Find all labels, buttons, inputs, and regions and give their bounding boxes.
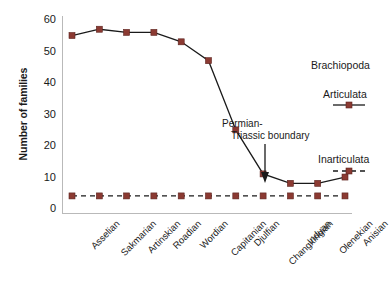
plot-area [0,0,391,294]
data-point-inarticulata-sakmarian[interactable] [96,193,102,199]
data-point-inarticulata-capitanian[interactable] [206,193,212,199]
data-point-articulata-anisian[interactable] [342,174,348,180]
legend-title: Brachiopoda [311,59,370,71]
data-point-articulata-capitanian[interactable] [206,58,212,64]
legend-label-articulata[interactable]: Articulata [323,88,367,100]
data-point-articulata-olenekian[interactable] [315,180,321,186]
annotation-permian-triassic-line1: Permian- [222,118,263,130]
data-point-inarticulata-olenekian[interactable] [315,193,321,199]
data-point-inarticulata-changxingian[interactable] [260,193,266,199]
data-point-articulata-wordian[interactable] [178,39,184,45]
data-point-inarticulata-induan[interactable] [287,193,293,199]
legend-label-inarticulata[interactable]: Inarticulata [318,153,369,165]
data-point-inarticulata-anisian[interactable] [342,193,348,199]
data-point-inarticulata-asselian[interactable] [69,193,75,199]
data-point-articulata-sakmarian[interactable] [96,26,102,32]
annotation-permian-triassic-line2: Triassic boundary [231,130,310,142]
data-point-articulata-asselian[interactable] [69,33,75,39]
data-point-articulata-roadian[interactable] [151,29,157,35]
data-point-inarticulata-djulfian[interactable] [233,193,239,199]
data-point-inarticulata-roadian[interactable] [151,193,157,199]
data-point-inarticulata-artinskian[interactable] [124,193,130,199]
data-point-articulata-artinskian[interactable] [124,29,130,35]
data-point-articulata-induan[interactable] [287,180,293,186]
annotation-arrow-head [261,172,269,183]
data-point-inarticulata-wordian[interactable] [178,193,184,199]
series-line-articulata [72,29,345,183]
chart-figure: Number of families 0102030405060 Asselia… [0,0,391,294]
